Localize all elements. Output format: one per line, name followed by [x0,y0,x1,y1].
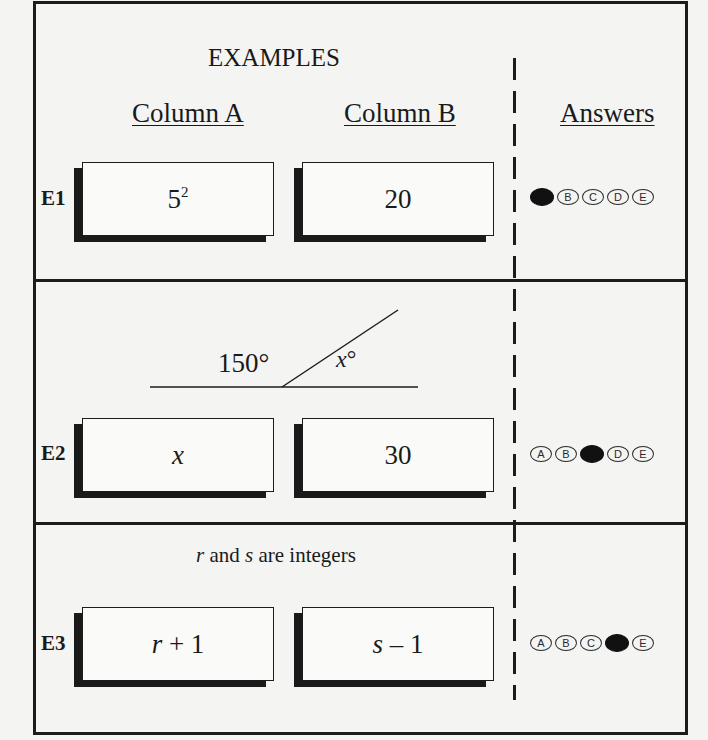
e2-choice-c-bubble[interactable]: C [580,445,604,463]
answers-dashed-separator [513,58,516,700]
e2-angle-label-150: 150° [218,348,269,379]
e1-column-a-value: 52 [168,184,189,215]
e1-answer-bubbles: A B C D E [530,188,654,206]
e1-choice-c-bubble[interactable]: C [582,189,604,205]
e3-choice-e-bubble[interactable]: E [632,635,654,651]
example-label-e3: E3 [41,631,66,656]
e2-column-b-value: 30 [385,440,412,471]
e3-choice-a-bubble[interactable]: A [530,635,552,651]
e3-column-b-box: s – 1 [302,607,494,681]
e2-choice-e-bubble[interactable]: E [632,446,654,462]
e1-choice-b-bubble[interactable]: B [557,189,579,205]
column-a-heading: Column A [132,98,244,129]
e3-condition-text: r and s are integers [196,543,356,568]
e3-column-a-value: r + 1 [152,629,205,660]
e2-column-a-box: x [82,418,274,492]
e1-choice-e-bubble[interactable]: E [632,189,654,205]
e3-choice-d-bubble[interactable]: D [605,634,629,652]
e3-choice-b-bubble[interactable]: B [555,635,577,651]
e1-choice-d-bubble[interactable]: D [607,189,629,205]
row-divider-1 [33,279,688,282]
e3-choice-c-bubble[interactable]: C [580,635,602,651]
e1-choice-a-bubble[interactable]: A [530,188,554,206]
e1-column-b-box: 20 [302,162,494,236]
e2-choice-d-bubble[interactable]: D [607,446,629,462]
e3-column-a-box: r + 1 [82,607,274,681]
row-divider-2 [33,522,688,525]
examples-title: EXAMPLES [208,44,340,72]
e3-column-b-value: s – 1 [372,629,423,660]
e2-angle-figure [148,306,423,392]
e2-column-b-box: 30 [302,418,494,492]
e2-answer-bubbles: A B C D E [530,445,654,463]
e1-column-b-value: 20 [385,184,412,215]
e1-column-a-box: 52 [82,162,274,236]
e3-answer-bubbles: A B C D E [530,634,654,652]
e2-column-a-value: x [172,440,184,471]
e2-choice-b-bubble[interactable]: B [555,446,577,462]
e2-angle-label-x: x° [336,346,356,373]
example-label-e2: E2 [41,441,66,466]
column-b-heading: Column B [344,98,456,129]
answers-heading: Answers [560,98,655,129]
e2-choice-a-bubble[interactable]: A [530,446,552,462]
example-label-e1: E1 [41,186,66,211]
